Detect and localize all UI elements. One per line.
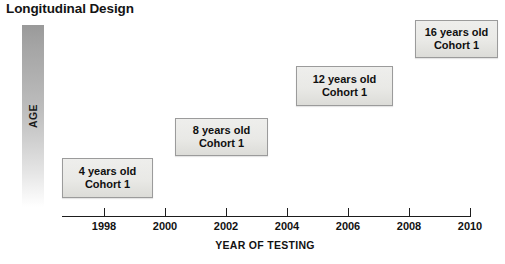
x-axis-tick-label: 2010	[458, 220, 482, 232]
cohort-box-cohort-label: Cohort 1	[85, 178, 130, 191]
longitudinal-design-figure: Longitudinal Design AGE 4 years old Coho…	[0, 0, 505, 264]
cohort-box-age-label: 8 years old	[193, 124, 250, 137]
cohort-box-age-label: 16 years old	[425, 26, 489, 39]
cohort-box-12-years: 12 years old Cohort 1	[296, 66, 393, 106]
cohort-box-4-years: 4 years old Cohort 1	[62, 158, 153, 198]
x-axis-tick	[104, 208, 105, 216]
x-axis-tick	[409, 208, 410, 216]
x-axis-tick	[165, 208, 166, 216]
cohort-box-age-label: 12 years old	[313, 73, 377, 86]
age-axis-bar	[22, 25, 44, 207]
x-axis-tick-label: 2000	[153, 220, 177, 232]
page-title: Longitudinal Design	[6, 1, 134, 16]
x-axis-tick-label: 2004	[275, 220, 299, 232]
cohort-box-cohort-label: Cohort 1	[434, 39, 479, 52]
x-axis-title: YEAR OF TESTING	[0, 239, 505, 251]
x-axis-tick	[287, 208, 288, 216]
cohort-box-8-years: 8 years old Cohort 1	[175, 118, 268, 156]
x-axis-line	[62, 216, 471, 217]
x-axis-tick-label: 2006	[336, 220, 360, 232]
cohort-box-cohort-label: Cohort 1	[199, 137, 244, 150]
x-axis-tick	[348, 208, 349, 216]
x-axis-tick	[226, 208, 227, 216]
x-axis-tick-label: 2002	[214, 220, 238, 232]
cohort-box-age-label: 4 years old	[79, 165, 136, 178]
x-axis-tick-label: 1998	[92, 220, 116, 232]
cohort-box-cohort-label: Cohort 1	[322, 86, 367, 99]
x-axis-tick	[470, 208, 471, 216]
x-axis-tick-label: 2008	[397, 220, 421, 232]
cohort-box-16-years: 16 years old Cohort 1	[415, 20, 498, 58]
